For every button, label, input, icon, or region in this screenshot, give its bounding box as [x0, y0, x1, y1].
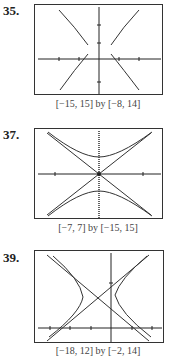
graph-35-plot — [35, 5, 164, 96]
graph-39 — [34, 250, 164, 343]
window-caption-39: [−18, 12] by [−2, 14] — [30, 345, 166, 356]
problem-number-35: 35. — [3, 4, 19, 17]
window-caption-35: [−15, 15] by [−8, 14] — [30, 98, 166, 109]
problem-number-37: 37. — [3, 128, 19, 141]
window-caption-37: [−7, 7] by [−15, 15] — [30, 222, 166, 233]
graph-35 — [34, 4, 163, 95]
graph-39-plot — [35, 251, 165, 344]
problem-number-39: 39. — [3, 251, 19, 264]
graph-37 — [34, 128, 163, 219]
graph-37-plot — [35, 129, 164, 220]
